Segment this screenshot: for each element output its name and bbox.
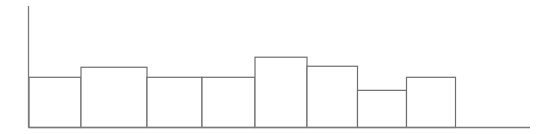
bars-group — [29, 57, 456, 127]
bar-3 — [147, 77, 202, 127]
bar-7 — [358, 90, 407, 127]
bar-1 — [29, 77, 81, 127]
bar-4 — [202, 77, 255, 127]
bar-6 — [307, 66, 358, 127]
bar-chart — [0, 0, 557, 134]
bar-2 — [81, 67, 147, 127]
bar-8 — [407, 77, 456, 127]
bar-5 — [255, 57, 307, 127]
